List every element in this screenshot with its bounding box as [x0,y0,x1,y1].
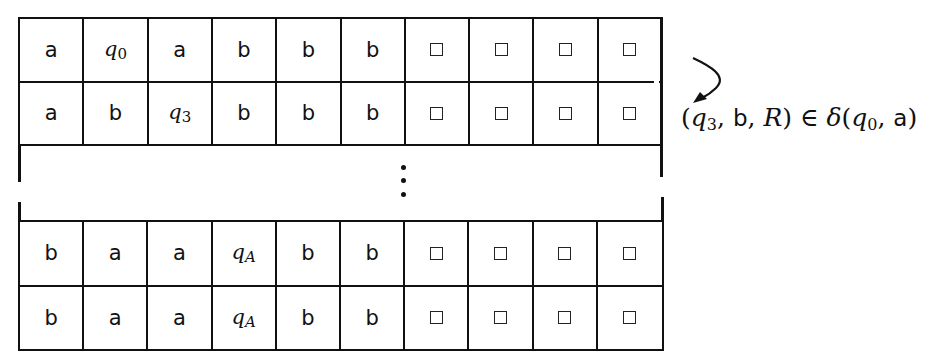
tape-cell: a [20,83,84,147]
blank-symbol-icon [430,43,443,56]
tape-cell: b [277,19,341,83]
tape-cell: b [277,287,341,350]
tape-cell [470,19,534,83]
state-subscript: A [245,313,256,331]
state-sub: 3 [707,115,717,134]
element-of: ) ∈ [782,103,826,132]
tape-cell [534,19,598,83]
tape-symbol: a [173,306,186,330]
tape-cell [599,19,663,83]
write-symbol: b [733,105,748,131]
ellipsis-dot-1 [401,165,406,170]
ellipsis-dot-3 [401,192,406,197]
gap-left-border-top [18,144,21,182]
state-symbol: qA [232,240,256,266]
comma: , [877,103,893,132]
move-direction: R [763,103,782,132]
paren-open: ( [681,103,691,132]
state-symbol: qA [232,305,256,331]
blank-symbol-icon [623,247,636,260]
tape-cell: b [20,222,84,287]
tape-cell [406,83,470,147]
tape-symbol: b [366,101,379,125]
tape-symbol: b [237,38,250,62]
tape-symbol: b [237,101,250,125]
tape-symbol: a [173,38,186,62]
tape-cell: b [341,222,405,287]
tape-cell: b [277,222,341,287]
ellipsis-dot-2 [401,178,406,183]
tape-cell [598,222,662,287]
tape-cell: q3 [149,83,213,147]
gap-left-border-bottom [18,202,21,222]
state-base: q [104,37,117,61]
tape-cell: a [148,287,212,350]
state-q: q [851,103,867,132]
tape-symbol: a [109,241,122,265]
blank-symbol-icon [559,43,572,56]
row-divider-gap [654,79,659,83]
tape-symbol: b [109,101,122,125]
read-symbol: a [893,105,907,131]
tape-cell [469,287,533,350]
tape-symbol: a [45,101,58,125]
blank-symbol-icon [495,107,508,120]
state-base: q [168,100,181,124]
comma: , [747,103,763,132]
tape-cell: a [20,19,84,83]
comma: , [717,103,733,132]
tape-symbol: a [45,38,58,62]
delta-symbol: δ [826,103,841,132]
curved-arrow-icon [680,48,730,108]
state-subscript: A [245,248,256,266]
tape-cell: b [341,287,405,350]
state-base: q [232,305,245,329]
blank-symbol-icon [430,311,443,324]
tape-symbol: b [365,306,378,330]
state-sub: 0 [867,115,877,134]
tableau-bottom-rows: baaqAbbbaaqAbb [18,220,664,351]
tape-cell [534,287,598,350]
tape-cell [598,287,662,350]
tape-symbol: b [365,241,378,265]
tape-symbol: b [302,38,315,62]
paren-close: ) [907,103,917,132]
tape-cell: b [342,83,406,147]
state-subscript: 0 [117,45,127,63]
tape-cell: b [20,287,84,350]
blank-symbol-icon [494,247,507,260]
tape-symbol: a [109,306,122,330]
tape-cell [599,83,663,147]
tape-symbol: b [44,306,57,330]
tape-cell: b [84,83,148,147]
blank-symbol-icon [558,247,571,260]
tape-cell [534,83,598,147]
blank-symbol-icon [623,107,636,120]
gap-right-border-bottom [661,197,664,222]
state-q: q [691,103,707,132]
tape-symbol: a [173,241,186,265]
blank-symbol-icon [494,311,507,324]
state-symbol: q3 [168,100,191,126]
tm-tableau-diagram: aq0abbbabq3bbb baaqAbbbaaqAbb (q3, b, R)… [0,0,929,360]
blank-symbol-icon [430,107,443,120]
tape-symbol: b [302,101,315,125]
top-right-border [660,17,663,177]
tape-symbol: b [366,38,379,62]
tape-symbol: b [301,306,314,330]
blank-symbol-icon [623,43,636,56]
tape-cell: a [148,222,212,287]
paren-open: ( [841,103,851,132]
tape-cell: a [149,19,213,83]
tape-cell: qA [213,287,277,350]
blank-symbol-icon [495,43,508,56]
tape-cell [405,287,469,350]
tape-cell: b [213,19,277,83]
tape-symbol: b [301,241,314,265]
tableau-top-rows: aq0abbbabq3bbb [18,17,663,146]
transition-annotation: (q3, b, R) ∈ δ(q0, a) [681,103,917,134]
tape-cell [406,19,470,83]
tape-cell: a [84,222,148,287]
state-symbol: q0 [104,37,127,63]
tape-symbol: b [44,241,57,265]
